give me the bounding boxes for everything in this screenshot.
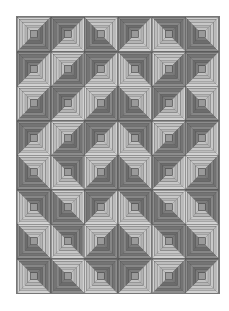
quilt-block [51, 259, 85, 294]
quilt-block [84, 224, 118, 259]
quilt-block [185, 190, 219, 225]
quilt-block [84, 121, 118, 156]
quilt-block [152, 17, 186, 52]
quilt-block [185, 259, 219, 294]
quilt-block [118, 224, 152, 259]
quilt-block [17, 121, 51, 156]
quilt-block [51, 52, 85, 87]
quilt-block [84, 259, 118, 294]
quilt-block [84, 52, 118, 87]
quilt-block [17, 86, 51, 121]
quilt-block [17, 17, 51, 52]
quilt-block [152, 121, 186, 156]
quilt-block [17, 52, 51, 87]
quilt-block [152, 86, 186, 121]
quilt-block [152, 224, 186, 259]
quilt-block [84, 86, 118, 121]
quilt-block [118, 259, 152, 294]
quilt-block [17, 190, 51, 225]
quilt-block [118, 86, 152, 121]
quilt-block [152, 52, 186, 87]
quilt-block [185, 17, 219, 52]
quilt-block [84, 17, 118, 52]
quilt-block [51, 155, 85, 190]
quilt-block [185, 52, 219, 87]
quilt-block [152, 155, 186, 190]
quilt-block [17, 224, 51, 259]
quilt-block [185, 155, 219, 190]
quilt-block [185, 86, 219, 121]
quilt-block [84, 155, 118, 190]
quilt-block [118, 190, 152, 225]
quilt-block [51, 86, 85, 121]
quilt-block [84, 190, 118, 225]
quilt-block [118, 17, 152, 52]
quilt-block [118, 121, 152, 156]
quilt-block [51, 121, 85, 156]
quilt-block [17, 155, 51, 190]
quilt-block [185, 224, 219, 259]
quilt-grid [17, 17, 219, 293]
quilt-block [152, 190, 186, 225]
quilt-block [118, 52, 152, 87]
quilt-block [118, 155, 152, 190]
quilt-block [51, 224, 85, 259]
quilt-block [152, 259, 186, 294]
quilt-block [51, 190, 85, 225]
quilt-block [17, 259, 51, 294]
quilt-block [51, 17, 85, 52]
quilt-block [185, 121, 219, 156]
